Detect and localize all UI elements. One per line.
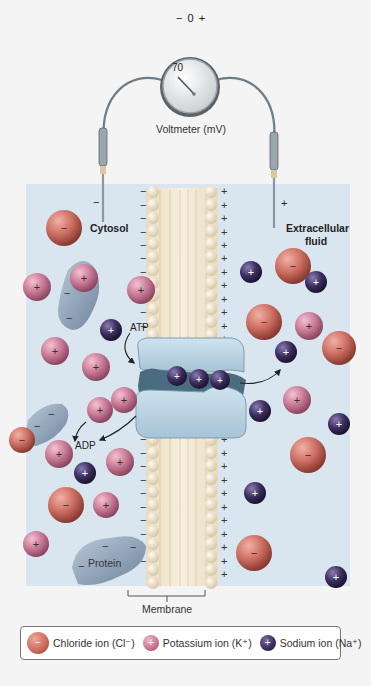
svg-text:+: + [221, 212, 227, 224]
svg-text:+: + [221, 568, 227, 580]
legend-item-sodium: + Sodium ion (Na⁺) [260, 635, 362, 651]
scale-plus: + [199, 12, 206, 24]
svg-text:−: − [140, 212, 146, 224]
voltmeter-reading: 70 [172, 62, 183, 73]
svg-text:+: + [221, 239, 227, 251]
svg-text:+: + [34, 281, 40, 293]
svg-text:+: + [248, 266, 254, 278]
svg-text:+: + [103, 499, 109, 511]
voltmeter-scale: − 0 + [176, 12, 206, 24]
svg-text:−: − [140, 474, 146, 486]
legend-label-chloride: Chloride ion (Cl⁻) [53, 637, 135, 649]
svg-text:+: + [33, 538, 39, 550]
svg-text:−: − [140, 239, 146, 251]
svg-text:+: + [221, 474, 227, 486]
svg-text:+: + [221, 528, 227, 540]
svg-text:+: + [313, 276, 319, 288]
svg-text:−: − [305, 449, 311, 461]
svg-text:+: + [82, 467, 88, 479]
sodium-ion-icon: + [260, 635, 276, 651]
svg-text:−: − [66, 312, 72, 324]
scale-minus: − [176, 12, 183, 24]
svg-text:+: + [221, 487, 227, 499]
svg-text:+: + [56, 448, 62, 460]
svg-text:−: − [140, 460, 146, 472]
svg-text:+: + [306, 320, 312, 332]
protein-label: Protein [88, 557, 121, 569]
adp-label: ADP [75, 440, 96, 451]
svg-text:+: + [121, 394, 127, 406]
svg-text:−: − [130, 541, 136, 553]
svg-text:−: − [64, 287, 70, 299]
svg-text:+: + [221, 279, 227, 291]
atp-label: ATP [130, 322, 149, 333]
svg-text:−: − [19, 434, 25, 446]
svg-text:+: + [257, 405, 263, 417]
cytosol-label: Cytosol [90, 222, 129, 234]
svg-text:+: + [81, 272, 87, 284]
legend-item-potassium: + Potassium ion (K⁺) [143, 635, 252, 651]
legend-label-sodium: Sodium ion (Na⁺) [280, 637, 362, 649]
svg-text:+: + [97, 404, 103, 416]
svg-text:−: − [251, 547, 257, 559]
membrane-potential-diagram: −−−−−−−−−−− −−−−−−−−−− ++++++++++++ ++++… [0, 0, 371, 686]
svg-text:+: + [336, 418, 342, 430]
svg-text:+: + [221, 447, 227, 459]
legend: − Chloride ion (Cl⁻) + Potassium ion (K⁺… [20, 626, 341, 660]
svg-text:+: + [221, 514, 227, 526]
svg-text:−: − [34, 420, 40, 432]
svg-text:−: − [78, 560, 84, 572]
svg-text:+: + [221, 199, 227, 211]
svg-text:+: + [138, 284, 144, 296]
svg-text:+: + [217, 375, 223, 386]
svg-text:−: − [140, 185, 146, 197]
svg-text:−: − [140, 199, 146, 211]
svg-text:−: − [261, 316, 267, 328]
svg-text:+: + [252, 487, 258, 499]
membrane-label: Membrane [142, 603, 192, 615]
legend-label-potassium: Potassium ion (K⁺) [163, 637, 252, 649]
svg-text:+: + [196, 374, 202, 385]
svg-text:−: − [140, 487, 146, 499]
svg-text:+: + [221, 293, 227, 305]
svg-text:+: + [221, 460, 227, 472]
svg-text:+: + [221, 185, 227, 197]
potassium-ion-icon: + [143, 635, 159, 651]
svg-text:−: − [102, 540, 108, 552]
voltmeter-label: Voltmeter (mV) [156, 123, 226, 135]
right-electrode-sign: + [281, 197, 287, 209]
svg-text:+: + [117, 456, 123, 468]
svg-text:−: − [140, 501, 146, 513]
extracellular-line1: Extracellular [286, 222, 346, 235]
svg-text:−: − [140, 226, 146, 238]
sodium-potassium-pump: +++ [136, 338, 246, 438]
svg-text:+: + [174, 371, 180, 382]
chloride-ion-icon: − [27, 632, 49, 654]
svg-text:+: + [221, 501, 227, 513]
svg-text:−: − [140, 252, 146, 264]
extracellular-label: Extracellular fluid [286, 222, 346, 248]
scale-zero: 0 [188, 12, 195, 24]
svg-text:−: − [290, 260, 296, 272]
svg-text:−: − [140, 528, 146, 540]
extracellular-line2: fluid [286, 235, 346, 248]
svg-text:+: + [221, 252, 227, 264]
svg-text:−: − [48, 408, 54, 420]
svg-text:+: + [93, 361, 99, 373]
svg-text:−: − [63, 499, 69, 511]
svg-text:−: − [61, 222, 67, 234]
svg-text:−: − [140, 306, 146, 318]
svg-text:+: + [221, 555, 227, 567]
svg-text:+: + [221, 226, 227, 238]
svg-text:+: + [221, 266, 227, 278]
left-electrode-sign: − [93, 196, 99, 208]
svg-text:−: − [140, 514, 146, 526]
svg-text:+: + [221, 306, 227, 318]
voltmeter [160, 57, 220, 117]
svg-text:−: − [140, 447, 146, 459]
svg-text:+: + [333, 571, 339, 583]
svg-text:+: + [221, 320, 227, 332]
svg-text:+: + [52, 345, 58, 357]
svg-text:+: + [294, 394, 300, 406]
svg-text:−: − [336, 342, 342, 354]
